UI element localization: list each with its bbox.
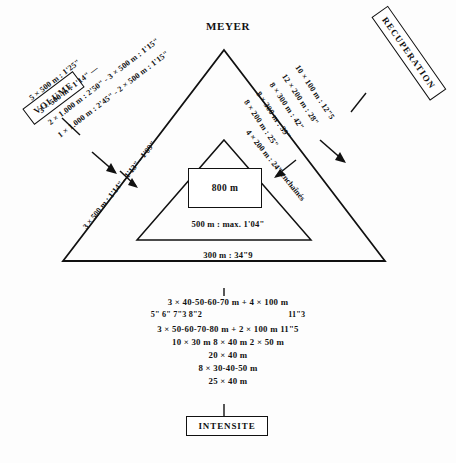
recuperation-connector	[351, 93, 366, 112]
intensite-line: 3 × 50-60-70-80 m + 2 × 100 m 11"5	[0, 324, 456, 334]
intensite-label: INTENSITE	[186, 416, 268, 436]
center-value-text: 800 m	[212, 183, 239, 193]
intensite-subline-right: 11"3	[288, 310, 305, 319]
intensite-subline: 5" 6" 7"3 8"211"3	[0, 310, 456, 319]
intensite-line: 25 × 40 m	[0, 376, 456, 386]
intensite-lines-group: 3 × 40-50-60-70 m + 4 × 100 m 5" 6" 7"3 …	[0, 297, 456, 389]
diagram-page: MEYER	[0, 0, 456, 463]
caption-500m: 500 m : max. 1'04"	[0, 219, 456, 229]
center-value-box: 800 m	[188, 168, 262, 208]
recuperation-arrow	[320, 140, 346, 163]
caption-300m: 300 m : 34"9	[0, 250, 456, 260]
volume-arrow	[92, 152, 117, 174]
intensite-line: 10 × 30 m 8 × 40 m 2 × 50 m	[0, 337, 456, 347]
intensite-line: 3 × 40-50-60-70 m + 4 × 100 m	[0, 297, 456, 307]
intensite-line: 20 × 40 m	[0, 350, 456, 360]
intensite-line: 8 × 30-40-50 m	[0, 363, 456, 373]
intensite-subline-left: 5" 6" 7"3 8"2	[151, 310, 203, 319]
